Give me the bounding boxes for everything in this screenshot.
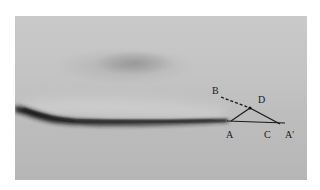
label-A: A bbox=[226, 130, 233, 140]
photograph: B D A C A' bbox=[15, 16, 307, 180]
point-D bbox=[248, 106, 251, 109]
line-AD bbox=[231, 108, 250, 121]
label-D: D bbox=[258, 95, 265, 105]
label-C: C bbox=[264, 130, 271, 140]
dashed-line-BD bbox=[221, 97, 250, 108]
label-B: B bbox=[212, 86, 219, 96]
label-A-prime: A' bbox=[285, 130, 294, 140]
